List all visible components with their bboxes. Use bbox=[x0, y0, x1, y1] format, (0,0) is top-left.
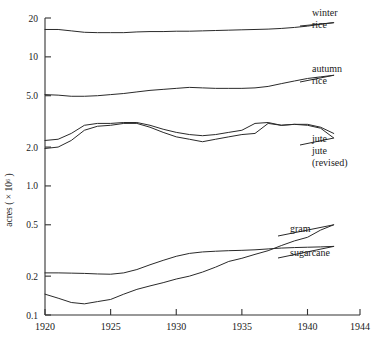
y-axis-tick-label: 0.5 bbox=[26, 220, 38, 230]
y-axis: 20105.02.01.00.50.20.1 bbox=[26, 14, 51, 321]
x-axis-tick-label: 1925 bbox=[101, 321, 121, 332]
y-axis-tick-label: 0.1 bbox=[26, 311, 38, 321]
x-axis-tick-label: 1920 bbox=[35, 321, 55, 332]
y-axis-tick-label: 5.0 bbox=[26, 91, 38, 101]
y-axis-title: acres ( × 10⁶ ) bbox=[4, 173, 15, 227]
x-axis-tick-label: 1940 bbox=[298, 321, 318, 332]
series-lines bbox=[45, 23, 334, 304]
series-line-jute bbox=[45, 123, 334, 141]
series-line-gram bbox=[45, 225, 334, 304]
y-axis-tick-label: 20 bbox=[29, 14, 39, 24]
y-axis-title-text: acres ( × 10⁶ ) bbox=[4, 173, 15, 227]
series-label-sugarcane: sugarcane bbox=[290, 247, 331, 258]
y-axis-tick-label: 0.2 bbox=[26, 272, 38, 282]
x-axis-tick-label: 1930 bbox=[166, 321, 186, 332]
x-axis-tick-label: 1944 bbox=[350, 321, 370, 332]
line-chart: 20105.02.01.00.50.20.1 19201925193019351… bbox=[0, 0, 376, 344]
x-axis-tick-label: 1935 bbox=[232, 321, 252, 332]
series-line-autumn-rice bbox=[45, 75, 334, 96]
series-label-jute-revised-: jute bbox=[311, 145, 328, 156]
series-label-gram: gram bbox=[290, 223, 311, 234]
series-labels: winterriceautumnricejutejute(revised)gra… bbox=[278, 7, 348, 258]
y-axis-tick-label: 2.0 bbox=[26, 143, 38, 153]
series-label-autumn-rice: autumn bbox=[312, 63, 342, 74]
y-axis-tick-label: 10 bbox=[29, 52, 39, 62]
y-axis-tick-label: 1.0 bbox=[26, 181, 38, 191]
series-label-jute: jute bbox=[311, 133, 328, 144]
series-line-jute-revised- bbox=[45, 123, 334, 148]
x-axis: 192019251930193519401944 bbox=[35, 309, 370, 332]
series-label-autumn-rice-line2: rice bbox=[312, 75, 328, 86]
series-label-winter-rice: winter bbox=[312, 7, 338, 18]
series-label-jute-revised--line2: (revised) bbox=[312, 157, 348, 169]
series-line-winter-rice bbox=[45, 23, 334, 33]
chart-container: 20105.02.01.00.50.20.1 19201925193019351… bbox=[0, 0, 376, 344]
series-label-winter-rice-line2: rice bbox=[312, 19, 328, 30]
